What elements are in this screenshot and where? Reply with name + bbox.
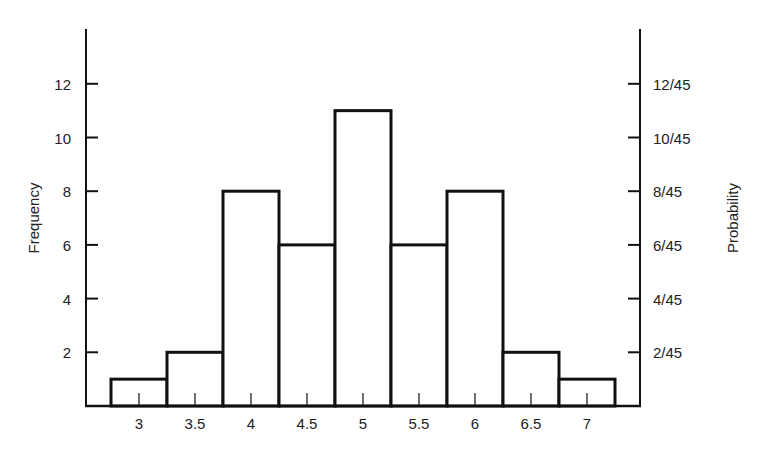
- x-tick-label: 6: [471, 415, 479, 432]
- right-tick-label: 4/45: [653, 291, 682, 308]
- right-tick-label: 2/45: [653, 344, 682, 361]
- histogram-bar: [279, 245, 335, 406]
- x-tick-label: 7: [583, 415, 591, 432]
- right-y-ticks: 2/454/456/458/4510/4512/45: [628, 76, 691, 362]
- y-axis-title-left: Frequency: [25, 182, 42, 253]
- left-tick-label: 10: [54, 130, 71, 147]
- left-y-ticks: 24681012: [54, 76, 98, 362]
- x-tick-label: 3: [135, 415, 143, 432]
- right-tick-label: 12/45: [653, 76, 691, 93]
- x-tick-label: 6.5: [521, 415, 542, 432]
- left-tick-label: 4: [63, 291, 71, 308]
- y-axis-title-right: Probability: [724, 182, 741, 253]
- x-tick-label: 5: [359, 415, 367, 432]
- left-tick-label: 8: [63, 183, 71, 200]
- left-tick-label: 2: [63, 344, 71, 361]
- right-tick-label: 6/45: [653, 237, 682, 254]
- histogram-bar: [335, 111, 391, 406]
- histogram-bars: [111, 111, 615, 406]
- x-tick-label: 3.5: [185, 415, 206, 432]
- x-tick-label: 5.5: [409, 415, 430, 432]
- right-tick-label: 10/45: [653, 130, 691, 147]
- histogram-chart: 24681012 2/454/456/458/4510/4512/45 33.5…: [0, 0, 768, 455]
- right-tick-label: 8/45: [653, 183, 682, 200]
- histogram-bar: [391, 245, 447, 406]
- left-tick-label: 12: [54, 76, 71, 93]
- x-tick-label: 4: [247, 415, 255, 432]
- x-tick-label: 4.5: [297, 415, 318, 432]
- histogram-bar: [447, 191, 503, 406]
- histogram-bar: [223, 191, 279, 406]
- left-tick-label: 6: [63, 237, 71, 254]
